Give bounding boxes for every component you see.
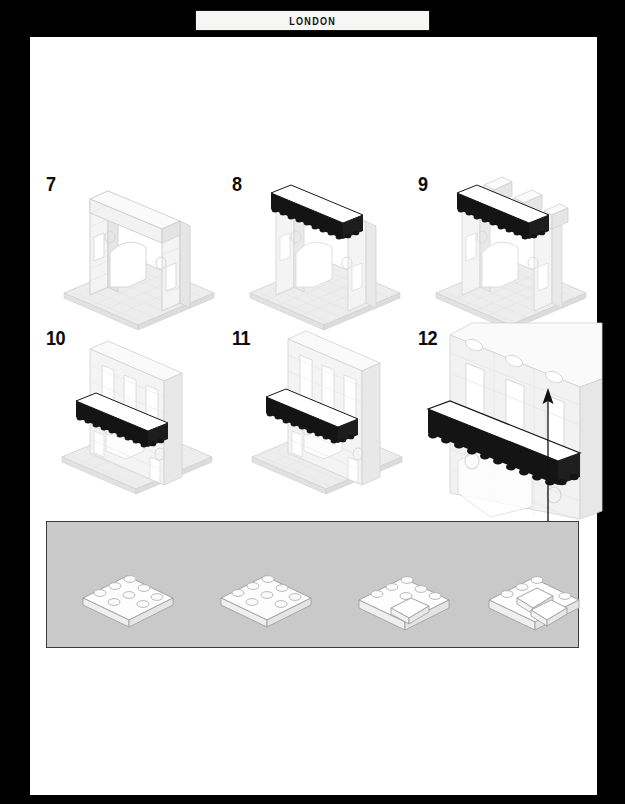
parts-callout-arrow <box>536 388 560 524</box>
step-11: 11 <box>216 321 406 501</box>
step-8: 8 <box>216 167 406 327</box>
step-9-model <box>426 175 596 325</box>
step-10-model <box>50 325 225 495</box>
step-9: 9 <box>402 167 597 327</box>
parts-bin <box>46 521 579 648</box>
step-7-model <box>54 175 224 325</box>
page-title: LONDON <box>289 15 336 27</box>
step-7: 7 <box>30 167 220 327</box>
step-8-model <box>240 175 410 325</box>
page-background: LONDON 7 <box>0 0 625 804</box>
step-12: 12 <box>402 321 602 521</box>
parts-bin-item-2[interactable] <box>207 558 327 620</box>
step-12-model <box>402 321 602 521</box>
page-header-bar: LONDON <box>196 11 429 30</box>
parts-bin-item-3[interactable] <box>347 558 467 620</box>
parts-bin-item-4[interactable] <box>479 558 599 620</box>
instruction-sheet: 7 <box>30 37 597 795</box>
step-10: 10 <box>30 321 220 501</box>
parts-bin-item-1[interactable] <box>69 558 189 620</box>
step-11-model <box>240 325 415 495</box>
